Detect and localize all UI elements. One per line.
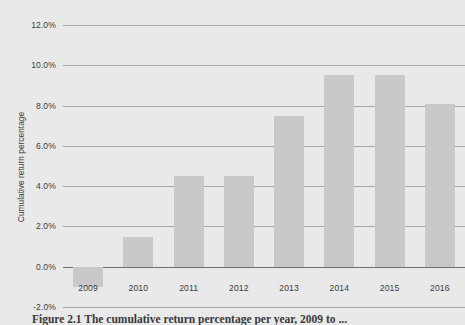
- bar-2015: [375, 75, 405, 266]
- gridline: [63, 65, 465, 66]
- gridline: [63, 25, 465, 26]
- bar-2014: [324, 75, 354, 266]
- gridline: [63, 106, 465, 107]
- y-axis-tick-label: 4.0%: [36, 181, 56, 191]
- x-axis-tick-label-2016: 2016: [427, 282, 453, 294]
- bar-2010: [123, 237, 153, 267]
- gridline: [63, 186, 465, 187]
- y-axis-tick-label: 0.0%: [36, 262, 56, 272]
- y-axis-tick-label: -2.0%: [33, 302, 56, 312]
- figure-caption: Figure 2.1 The cumulative return percent…: [32, 313, 452, 325]
- zero-axis-line: [63, 267, 465, 269]
- x-axis-tick-labels: 20092010201120122013201420152016: [63, 282, 465, 298]
- y-axis-tick-label: 10.0%: [31, 60, 56, 70]
- bar-2012: [224, 176, 254, 267]
- bar-2016: [425, 104, 455, 267]
- y-axis-tick-label: 2.0%: [36, 221, 56, 231]
- gridline: [63, 146, 465, 147]
- y-axis-tick-label: 12.0%: [31, 20, 56, 30]
- y-axis-title-text: Cumulative return percentage: [14, 97, 28, 237]
- x-axis-tick-label-2012: 2012: [226, 282, 252, 294]
- plot-area: 12.0%10.0%8.0%6.0%4.0%2.0%0.0%-2.0%: [63, 25, 465, 307]
- x-axis-tick-label-2015: 2015: [377, 282, 403, 294]
- y-axis-tick-label: 8.0%: [36, 101, 56, 111]
- bar-2011: [174, 176, 204, 267]
- x-axis-tick-label-2013: 2013: [276, 282, 302, 294]
- x-axis-tick-label-2014: 2014: [327, 282, 353, 294]
- bar-2013: [274, 116, 304, 267]
- x-axis-tick-label-2009: 2009: [75, 282, 101, 294]
- y-axis-tick-label: 6.0%: [36, 141, 56, 151]
- y-axis-title: Cumulative return percentage: [14, 97, 28, 237]
- x-axis-tick-label-2011: 2011: [176, 282, 201, 294]
- gridline: [63, 307, 465, 308]
- x-axis-tick-label-2010: 2010: [126, 282, 152, 294]
- gridline: [63, 226, 465, 227]
